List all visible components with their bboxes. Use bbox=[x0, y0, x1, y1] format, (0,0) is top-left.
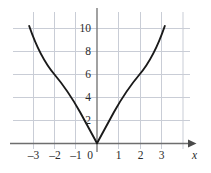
x-axis-arrowhead bbox=[188, 140, 197, 148]
x-tick-label--2: –2 bbox=[45, 150, 65, 162]
x-tick-label-3: 3 bbox=[152, 150, 172, 162]
y-tick-label-10: 10 bbox=[71, 23, 91, 35]
y-tick-label-8: 8 bbox=[71, 46, 91, 58]
x-axis-label: x bbox=[192, 150, 197, 162]
vertical-gridlines bbox=[34, 12, 184, 149]
x-axis bbox=[10, 140, 197, 148]
horizontal-gridlines bbox=[13, 29, 190, 121]
x-tick-label--3: –3 bbox=[24, 150, 44, 162]
y-tick-label-4: 4 bbox=[71, 92, 91, 104]
x-tick-label-1: 1 bbox=[109, 150, 129, 162]
chart-figure: –3 –2 –1 0 1 2 3 2 4 6 8 10 x bbox=[0, 0, 211, 173]
y-tick-label-6: 6 bbox=[71, 69, 91, 81]
x-tick-label-0: 0 bbox=[80, 150, 100, 162]
x-tick-label-2: 2 bbox=[131, 150, 151, 162]
parabola-plot bbox=[0, 0, 211, 173]
y-tick-label-2: 2 bbox=[71, 115, 91, 127]
